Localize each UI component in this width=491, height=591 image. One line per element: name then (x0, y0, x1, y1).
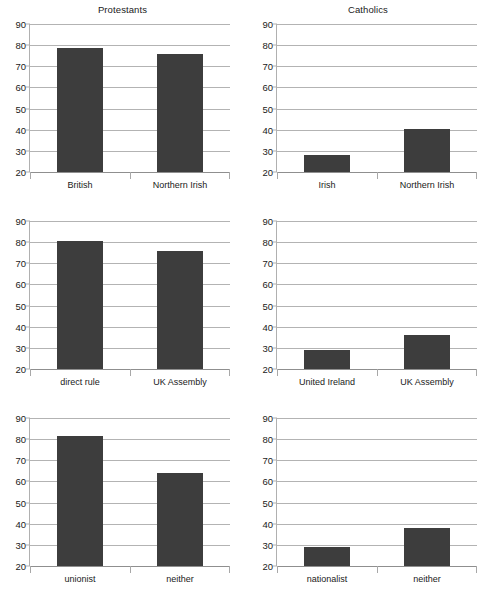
chart-panel-bottom-left: 2030405060708090 unionistneither (0, 394, 245, 591)
x-axis-tick-mark (229, 172, 230, 179)
x-axis-category-label: direct rule (60, 377, 100, 387)
y-axis-tick-label: 20 (262, 167, 273, 178)
x-axis-tick-mark (377, 566, 378, 573)
y-axis-tick-label: 70 (15, 61, 26, 72)
y-axis-tick-label: 50 (262, 103, 273, 114)
y-axis-tick-label: 50 (15, 300, 26, 311)
x-axis-ticks (30, 566, 230, 573)
y-axis-tick-label: 60 (262, 476, 273, 487)
x-axis-labels: BritishNorthern Irish (30, 180, 230, 194)
y-axis-tick-label: 80 (262, 40, 273, 51)
x-axis-category-label: neither (413, 574, 441, 584)
x-axis-tick-mark (476, 369, 477, 376)
y-axis-tick-label: 20 (15, 364, 26, 375)
y-axis-tick-label: 70 (262, 258, 273, 269)
x-axis-tick-mark (377, 172, 378, 179)
plot-area: 2030405060708090 nationalistneither (277, 418, 477, 566)
bar (57, 436, 103, 566)
y-axis-tick-label: 90 (15, 413, 26, 424)
y-axis-tick-label: 30 (15, 145, 26, 156)
x-axis-tick-mark (277, 369, 278, 376)
bar (404, 129, 450, 172)
bar-series (277, 24, 477, 172)
x-axis-tick-mark (30, 172, 31, 179)
y-axis-tick-label: 20 (262, 364, 273, 375)
y-axis-tick-label: 80 (262, 434, 273, 445)
y-axis-tick-label: 80 (15, 237, 26, 248)
x-axis-labels: unionistneither (30, 574, 230, 588)
bar-series (30, 418, 230, 566)
y-axis-tick-label: 90 (262, 216, 273, 227)
x-axis-category-label: UK Assembly (153, 377, 207, 387)
bar (157, 251, 203, 369)
chart-panel-top-right: Catholics 2030405060708090 IrishNorthern… (245, 0, 491, 197)
x-axis-ticks (30, 172, 230, 179)
x-axis-category-label: Northern Irish (153, 180, 208, 190)
x-axis-ticks (277, 172, 477, 179)
x-axis-labels: United IrelandUK Assembly (277, 377, 477, 391)
y-axis-tick-label: 60 (15, 82, 26, 93)
y-axis-tick-label: 90 (15, 19, 26, 30)
y-axis-tick-label: 90 (262, 413, 273, 424)
y-axis-tick-label: 70 (262, 61, 273, 72)
y-axis-tick-label: 20 (15, 561, 26, 572)
y-axis-tick-label: 40 (15, 518, 26, 529)
x-axis-tick-mark (476, 172, 477, 179)
y-axis-tick-label: 30 (262, 342, 273, 353)
y-axis-tick-label: 40 (15, 321, 26, 332)
y-axis-tick-label: 60 (15, 476, 26, 487)
x-axis-category-label: unionist (64, 574, 95, 584)
chart-panel-grid: Protestants 2030405060708090 BritishNort… (0, 0, 491, 591)
x-axis-category-label: Irish (318, 180, 335, 190)
y-axis-tick-label: 50 (262, 497, 273, 508)
bar-series (277, 418, 477, 566)
y-axis-tick-label: 40 (262, 124, 273, 135)
bar (157, 473, 203, 566)
bar (157, 54, 203, 172)
x-axis-tick-mark (277, 172, 278, 179)
y-axis-tick-label: 20 (262, 561, 273, 572)
bar (57, 241, 103, 369)
x-axis-ticks (30, 369, 230, 376)
chart-panel-bottom-right: 2030405060708090 nationalistneither (245, 394, 491, 591)
x-axis-labels: IrishNorthern Irish (277, 180, 477, 194)
y-axis-tick-label: 70 (15, 455, 26, 466)
x-axis-ticks (277, 566, 477, 573)
chart-title: Protestants (0, 4, 245, 15)
x-axis-tick-mark (229, 566, 230, 573)
plot-area: 2030405060708090 IrishNorthern Irish (277, 24, 477, 172)
plot-area: 2030405060708090 unionistneither (30, 418, 230, 566)
x-axis-tick-mark (130, 566, 131, 573)
bar (404, 528, 450, 566)
y-axis-tick-label: 40 (15, 124, 26, 135)
y-axis-tick-label: 80 (15, 40, 26, 51)
y-axis-tick-label: 50 (15, 103, 26, 114)
y-axis-tick-label: 90 (15, 216, 26, 227)
figure-container: Protestants 2030405060708090 BritishNort… (0, 0, 491, 591)
x-axis-labels: nationalistneither (277, 574, 477, 588)
x-axis-tick-mark (130, 172, 131, 179)
bar-series (277, 221, 477, 369)
x-axis-category-label: British (67, 180, 92, 190)
x-axis-category-label: Northern Irish (400, 180, 455, 190)
bar-series (30, 24, 230, 172)
y-axis-tick-label: 60 (262, 279, 273, 290)
y-axis-tick-label: 20 (15, 167, 26, 178)
bar (57, 48, 103, 172)
y-axis-tick-label: 80 (262, 237, 273, 248)
bar (304, 350, 350, 369)
bar (304, 155, 350, 172)
y-axis-tick-label: 30 (262, 539, 273, 550)
y-axis-tick-label: 50 (15, 497, 26, 508)
y-axis-tick-label: 60 (262, 82, 273, 93)
y-axis-tick-label: 30 (15, 342, 26, 353)
x-axis-category-label: neither (166, 574, 194, 584)
chart-panel-middle-right: 2030405060708090 United IrelandUK Assemb… (245, 197, 491, 394)
y-axis-tick-label: 30 (262, 145, 273, 156)
plot-area: 2030405060708090 direct ruleUK Assembly (30, 221, 230, 369)
bar-series (30, 221, 230, 369)
x-axis-tick-mark (377, 369, 378, 376)
x-axis-tick-mark (30, 566, 31, 573)
x-axis-tick-mark (476, 566, 477, 573)
y-axis-tick-label: 40 (262, 321, 273, 332)
